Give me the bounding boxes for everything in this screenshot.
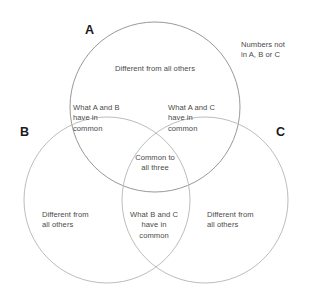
region-label-a-only: Different from all others (90, 64, 220, 74)
region-label-b-and-c: What B and C have in common (120, 210, 188, 241)
region-label-a-and-b: What A and B have in common (73, 103, 139, 134)
venn-diagram: A B C Numbers not in A, B or C Different… (0, 0, 312, 299)
set-label-c: C (276, 126, 285, 139)
region-label-a-and-c: What A and C have in common (168, 103, 234, 134)
circle-set-c (122, 117, 288, 283)
region-label-a-b-and-c: Common to all three (122, 153, 188, 174)
region-label-outside: Numbers not in A, B or C (241, 40, 311, 61)
set-label-a: A (85, 24, 94, 37)
region-label-b-only: Different from all others (42, 210, 112, 231)
region-label-c-only: Different from all others (207, 210, 277, 231)
set-label-b: B (20, 126, 29, 139)
circle-set-b (24, 117, 190, 283)
